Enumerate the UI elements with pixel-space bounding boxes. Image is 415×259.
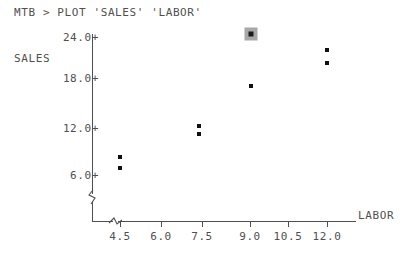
scatter-plot: 24.0+18.0+12.0+6.0+ SALES 4.56.07.59.010… [0,0,415,259]
terminal-screen: MTB > PLOT 'SALES' 'LABOR' 24.0+18.0+12.… [0,0,415,259]
data-point-selected[interactable] [249,32,254,37]
y-axis-tick-mark [93,78,98,79]
x-axis-tick-mark [161,222,162,227]
y-axis-tick: 6.0+ [0,169,99,182]
y-axis-tick-mark [93,128,98,129]
x-axis-tick-mark [250,222,251,227]
x-axis-tick-mark [288,222,289,227]
x-axis-tick-mark [120,222,121,227]
y-axis-tick: 18.0+ [0,72,99,85]
y-axis-tick-mark [93,175,98,176]
y-axis-tick: 24.0+ [0,31,99,44]
data-point[interactable] [197,132,201,136]
y-axis-tick: 12.0+ [0,122,99,135]
data-point[interactable] [118,155,122,159]
data-point[interactable] [325,48,329,52]
data-point[interactable] [325,61,329,65]
data-point[interactable] [249,84,253,88]
y-axis-line-lower [92,202,93,222]
x-axis-tick-label: 4.5 [109,230,131,243]
x-axis-tick-mark [327,222,328,227]
data-point[interactable] [197,124,201,128]
x-axis-line-main [118,221,356,222]
x-axis-tick-label: 10.5 [274,230,303,243]
y-axis-tick-mark [93,37,98,38]
x-axis-tick-label: 7.5 [191,230,213,243]
data-point[interactable] [118,166,122,170]
y-axis-break-icon [86,189,99,205]
x-axis-tick-label: 9.0 [239,230,261,243]
y-axis-title: SALES [14,52,50,65]
x-axis-tick-label: 6.0 [150,230,172,243]
x-axis-title: LABOR [358,209,394,222]
x-axis-tick-label: 12.0 [313,230,342,243]
x-axis-tick-mark [202,222,203,227]
